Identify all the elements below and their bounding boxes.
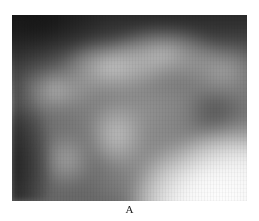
radiograph-grain [12, 15, 247, 201]
radiograph-image [12, 15, 247, 201]
panel-label: A [0, 202, 259, 216]
